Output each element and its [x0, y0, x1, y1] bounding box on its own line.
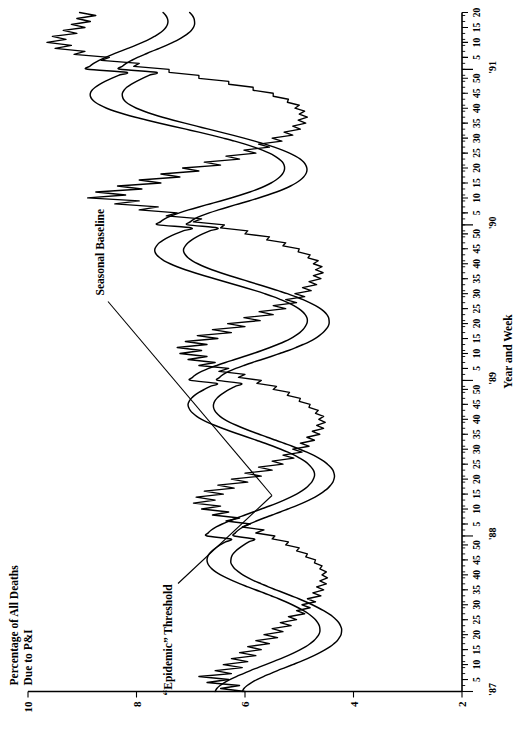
week-tick-label: 5: [472, 365, 482, 370]
y-axis-title-line1: Percentage of All Deaths: [8, 564, 21, 685]
week-tick-label: 30: [472, 444, 482, 454]
week-tick-label: 40: [472, 258, 482, 268]
week-tick-label: 15: [472, 22, 482, 32]
y-tick-label-group: 246810: [22, 701, 468, 713]
year-label: '90: [487, 216, 498, 229]
week-tick-label: 35: [472, 429, 482, 439]
seasonal-baseline-annotation: Seasonal Baseline: [94, 208, 106, 295]
year-label-group: '87'88'89'90'91: [487, 60, 498, 695]
week-tick-label: 5: [472, 54, 482, 59]
x-tick-label-group: 5101520253035404550510152025303540455051…: [472, 7, 482, 681]
seasonal-baseline-leader-line: [108, 301, 272, 495]
week-tick-label: 50: [472, 228, 482, 238]
y-axis-title-line2: Due to P&I: [22, 628, 34, 685]
week-tick-label: 20: [472, 474, 482, 484]
week-tick-label: 50: [472, 73, 482, 83]
week-tick-label: 35: [472, 118, 482, 128]
week-tick-label: 40: [472, 569, 482, 579]
week-tick-label: 45: [472, 554, 482, 564]
epidemic-threshold-annotation: “Epidemic” Threshold: [162, 583, 175, 695]
year-label: '89: [487, 372, 498, 385]
axes-group: [28, 12, 462, 691]
week-tick-label: 15: [472, 644, 482, 654]
week-tick-label: 10: [472, 192, 482, 202]
year-label: '87: [487, 683, 498, 696]
y-tick-label: 6: [239, 701, 251, 707]
annotation-leaders: [108, 301, 272, 583]
year-label: '91: [487, 60, 498, 73]
week-tick-label: 15: [472, 489, 482, 499]
week-tick-label: 45: [472, 399, 482, 409]
week-tick-label: 50: [472, 384, 482, 394]
rotated-figure-group: 246810 510152025303540455051015202530354…: [0, 0, 528, 753]
week-tick-label: 25: [472, 148, 482, 158]
series-group: [47, 12, 342, 691]
week-tick-label: 25: [472, 459, 482, 469]
week-tick-label: 40: [472, 103, 482, 113]
week-tick-label: 20: [472, 163, 482, 173]
week-tick-label: 35: [472, 273, 482, 283]
week-tick-label: 10: [472, 659, 482, 669]
week-tick-label: 40: [472, 414, 482, 424]
week-tick-label: 10: [472, 504, 482, 514]
week-tick-label: 5: [472, 210, 482, 215]
seasonal-baseline-curve: [118, 12, 342, 691]
week-tick-label: 30: [472, 133, 482, 143]
y-tick-label: 4: [348, 701, 360, 707]
week-tick-label: 15: [472, 333, 482, 343]
week-tick-label: 20: [472, 629, 482, 639]
figure-canvas: 246810 510152025303540455051015202530354…: [0, 0, 528, 753]
week-tick-label: 45: [472, 243, 482, 253]
y-tick-label: 8: [131, 701, 143, 707]
pneumonia-influenza-mortality-chart: 246810 510152025303540455051015202530354…: [0, 0, 528, 753]
week-tick-label: 30: [472, 599, 482, 609]
plot-wrapper: 246810 510152025303540455051015202530354…: [0, 0, 528, 753]
week-tick-label: 10: [472, 37, 482, 47]
week-tick-label: 50: [472, 539, 482, 549]
week-tick-label: 30: [472, 288, 482, 298]
y-tick-label: 10: [22, 701, 34, 713]
x-axis-title: Year and Week: [502, 313, 514, 388]
epidemic-threshold-leader-line: [178, 495, 272, 583]
week-tick-label: 25: [472, 303, 482, 313]
week-tick-label: 20: [472, 7, 482, 17]
week-tick-label: 15: [472, 177, 482, 187]
week-tick-label: 5: [472, 676, 482, 681]
week-tick-label: 20: [472, 318, 482, 328]
y-tick-label: 2: [456, 701, 468, 707]
week-tick-label: 10: [472, 348, 482, 358]
week-tick-label: 5: [472, 521, 482, 526]
year-label: '88: [487, 527, 498, 540]
week-tick-label: 25: [472, 614, 482, 624]
week-tick-label: 35: [472, 584, 482, 594]
week-tick-label: 45: [472, 88, 482, 98]
